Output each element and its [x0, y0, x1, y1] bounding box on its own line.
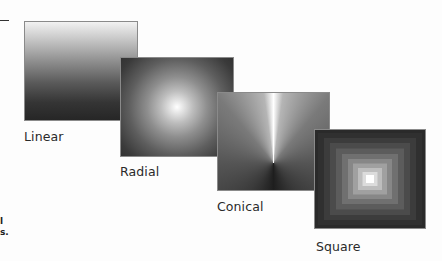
top-left-rule — [0, 20, 9, 21]
square-label: Square — [316, 239, 361, 254]
clipped-text-fragment: l — [0, 217, 3, 226]
conical-label: Conical — [217, 199, 263, 214]
radial-label: Radial — [120, 164, 159, 179]
clipped-text-fragment: s. — [0, 228, 9, 237]
square-gradient-swatch — [314, 129, 426, 229]
linear-label: Linear — [24, 129, 63, 144]
